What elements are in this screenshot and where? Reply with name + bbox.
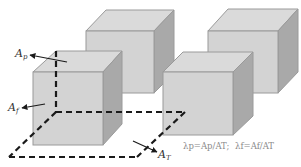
cube-front-face <box>33 72 103 145</box>
front-left-cube <box>33 51 122 145</box>
plan-area-label: Ap <box>14 47 28 61</box>
lambda-f-formula: λf=Af/AT <box>235 141 274 151</box>
urban-canopy-cube-diagram: Ap Af AT λp=Ap/AT; λf=Af/AT <box>0 0 301 167</box>
frontal-area-label: Af <box>7 101 20 115</box>
front-right-cube <box>163 52 253 135</box>
total-area-label: AT <box>157 148 172 162</box>
cube-front-face <box>163 72 233 135</box>
lambda-p-formula: λp=Ap/AT; <box>183 141 229 151</box>
lambda-formula: λp=Ap/AT; λf=Af/AT <box>183 141 274 151</box>
